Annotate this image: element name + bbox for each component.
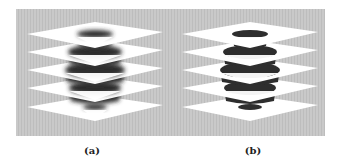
slice-cross-section [232, 30, 268, 38]
figure: (a) (b) [0, 0, 340, 166]
figure-canvas [0, 0, 340, 166]
caption-a: (a) [72, 145, 112, 156]
caption-b: (b) [233, 145, 273, 156]
slice-cross-section [83, 104, 107, 110]
slice-cross-section [77, 30, 113, 38]
slice-cross-section [238, 104, 262, 110]
